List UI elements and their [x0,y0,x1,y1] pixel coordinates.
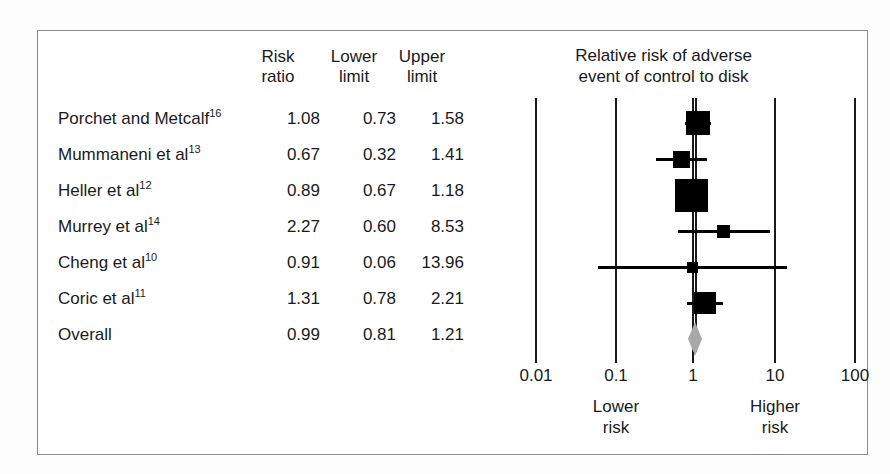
table-row: Heller et al120.890.671.18 [38,181,458,211]
study-label: Coric et al11 [58,289,146,309]
risk-ratio-value: 2.27 [236,217,320,237]
tick-0.1 [615,352,617,363]
upper-limit-value: 13.96 [380,253,464,273]
effect-marker-square [675,179,708,212]
effect-marker-square [687,262,698,273]
tick-0.01 [535,352,537,363]
study-label: Heller et al12 [58,181,152,201]
study-label: Cheng et al10 [58,253,157,273]
tick-100 [854,352,856,363]
tick-10 [774,352,776,363]
table-row: Overall0.990.811.21 [38,325,458,355]
effect-marker-square [694,292,716,314]
study-label: Overall [58,325,112,345]
plot-row [458,325,869,355]
study-reference-number: 14 [148,215,160,227]
effect-marker-square [717,225,730,238]
tick-label-0.1: 0.1 [581,366,651,386]
tick-label-100: 100 [820,366,890,386]
study-reference-number: 11 [135,287,146,299]
study-reference-number: 12 [139,179,151,191]
study-label: Murrey et al14 [58,217,160,237]
tick-label-10: 10 [740,366,810,386]
tick-label-1: 1 [658,366,728,386]
plot-row [458,217,869,247]
figure-frame: Risk ratio Lower limit Upper limit Porch… [37,30,868,455]
tick-label-0.01: 0.01 [501,366,571,386]
upper-limit-value: 1.21 [380,325,464,345]
effect-marker-square [686,111,710,135]
study-label: Mummaneni et al13 [58,145,201,165]
plot-row [458,145,869,175]
overall-summary-diamond [688,322,702,356]
axis-label-lower-risk: Lower risk [561,396,671,438]
plot-row [458,253,869,283]
plot-row [458,289,869,319]
study-reference-number: 10 [145,251,157,263]
tick-1 [692,352,694,363]
risk-ratio-value: 0.91 [236,253,320,273]
effect-marker-square [673,151,690,168]
study-label: Porchet and Metcalf16 [58,109,221,129]
upper-limit-value: 1.58 [380,109,464,129]
upper-limit-value: 2.21 [380,289,464,309]
axis-label-higher-risk: Higher risk [720,396,830,438]
table-row: Mummaneni et al130.670.321.41 [38,145,458,175]
upper-limit-value: 1.41 [380,145,464,165]
risk-ratio-value: 0.67 [236,145,320,165]
study-reference-number: 16 [209,107,221,119]
column-header-risk-ratio: Risk ratio [236,47,320,87]
table-row: Coric et al111.310.782.21 [38,289,458,319]
plot-row [458,109,869,139]
table-row: Murrey et al142.270.608.53 [38,217,458,247]
forest-plot-figure: Risk ratio Lower limit Upper limit Porch… [0,0,890,474]
risk-ratio-value: 0.89 [236,181,320,201]
risk-ratio-value: 1.31 [236,289,320,309]
study-reference-number: 13 [188,143,200,155]
forest-plot-panel: Relative risk of adverse event of contro… [458,31,869,456]
risk-ratio-value: 1.08 [236,109,320,129]
table-row: Cheng et al100.910.0613.96 [38,253,458,283]
upper-limit-value: 8.53 [380,217,464,237]
table-row: Porchet and Metcalf161.080.731.58 [38,109,458,139]
column-header-upper-limit: Upper limit [380,47,464,87]
upper-limit-value: 1.18 [380,181,464,201]
results-table: Risk ratio Lower limit Upper limit Porch… [38,31,458,456]
risk-ratio-value: 0.99 [236,325,320,345]
plot-row [458,181,869,211]
plot-title: Relative risk of adverse event of contro… [458,45,869,87]
